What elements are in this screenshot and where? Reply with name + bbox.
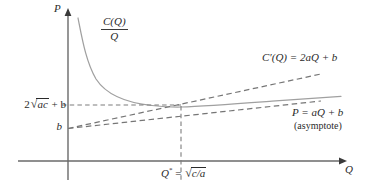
ytick-min-avg-cost-radicand: ac	[36, 98, 48, 111]
average-cost-numerator: C(Q)	[101, 16, 128, 30]
ytick-label-b: b	[57, 121, 63, 133]
axis-label-p: P	[54, 3, 61, 15]
asymptote-line-label: P = aQ + b	[292, 107, 343, 119]
sqrt-icon: √c/a	[184, 167, 206, 180]
xtick-label-q-star: Q* = √c/a	[161, 167, 206, 180]
axis-label-q: Q	[345, 164, 353, 176]
y-axis	[65, 8, 72, 180]
q-star-equals: =	[172, 167, 184, 179]
average-cost-curve-label: C(Q) Q	[101, 16, 128, 42]
q-star-radicand: c/a	[191, 167, 206, 180]
ytick-min-avg-cost-suffix: + b	[49, 98, 66, 110]
marginal-cost-line-label: C′(Q) = 2aQ + b	[262, 52, 337, 64]
q-star-symbol: Q	[161, 167, 169, 179]
ytick-label-min-average-cost: 2√ac + b	[24, 98, 66, 111]
asymptote-note-label: (asymptote)	[294, 121, 342, 132]
marginal-cost-line	[68, 74, 321, 129]
average-cost-denominator: Q	[101, 30, 128, 43]
sqrt-icon: √ac	[30, 98, 49, 111]
chart-figure: P Q C(Q) Q C′(Q) = 2aQ + b P = aQ + b (a…	[0, 0, 372, 195]
asymptote-line	[68, 101, 321, 129]
